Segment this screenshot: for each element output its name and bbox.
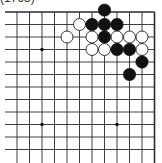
white-stone[interactable] (86, 44, 98, 56)
black-stone[interactable] (98, 4, 110, 16)
black-stone[interactable] (86, 18, 98, 30)
black-stone[interactable] (98, 18, 110, 30)
white-stone[interactable] (136, 31, 148, 43)
white-stone[interactable] (61, 31, 73, 43)
star-point (40, 123, 44, 127)
white-stone[interactable] (86, 31, 98, 43)
black-stone[interactable] (136, 56, 148, 68)
white-stone[interactable] (74, 19, 86, 31)
black-stone[interactable] (98, 31, 110, 43)
white-stone[interactable] (136, 44, 148, 56)
black-stone[interactable] (123, 68, 135, 80)
star-point (40, 48, 44, 52)
black-stone[interactable] (111, 43, 123, 55)
white-stone[interactable] (99, 44, 111, 56)
white-stone[interactable] (111, 31, 123, 43)
white-stone[interactable] (124, 31, 136, 43)
go-board[interactable] (0, 0, 162, 163)
star-point (115, 123, 119, 127)
black-stone[interactable] (123, 43, 135, 55)
black-stone[interactable] (111, 18, 123, 30)
